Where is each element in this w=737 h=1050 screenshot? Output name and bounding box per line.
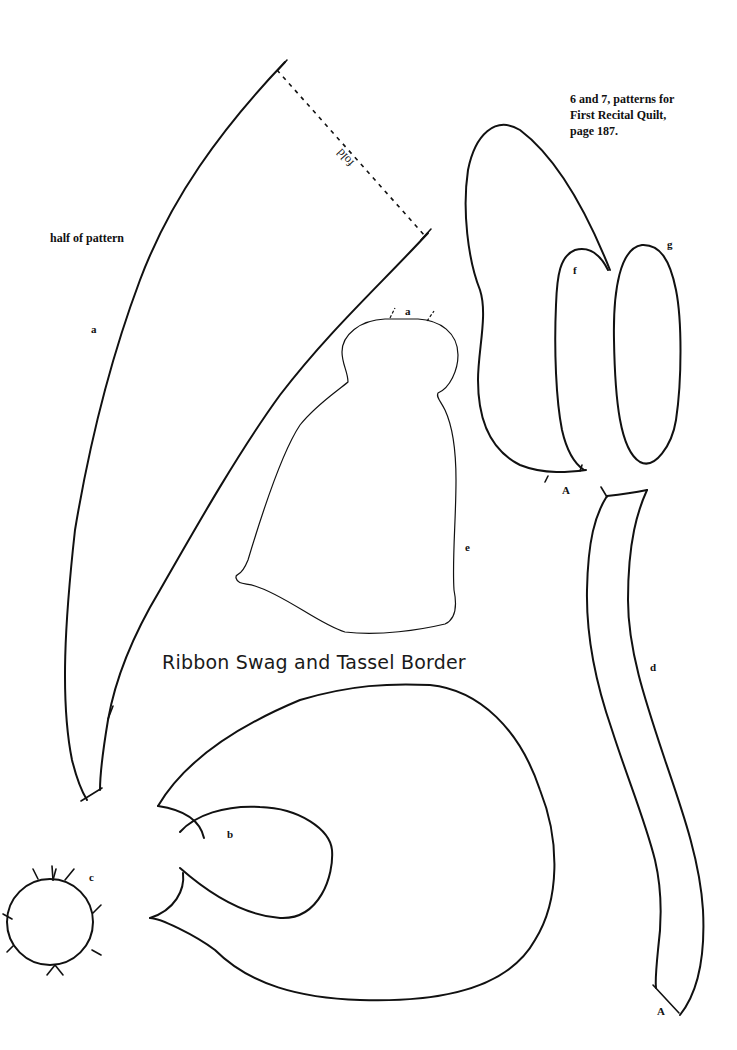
pattern-piece-g [614,245,681,464]
pattern-piece-a [65,60,431,801]
caption-line-2: First Recital Quilt, [570,107,674,123]
page-title: Ribbon Swag and Tassel Border [162,651,466,673]
piece-label-e: e [465,542,470,553]
pattern-page: 6 and 7, patterns for First Recital Quil… [0,0,737,1050]
caption-line-3: page 187. [570,123,674,139]
piece-label-c: c [89,872,94,883]
pattern-piece-f [545,249,608,482]
piece-label-A-bottom: A [657,1006,665,1017]
half-pattern-note: half of pattern [50,232,124,244]
piece-label-b: b [227,829,233,840]
pattern-caption: 6 and 7, patterns for First Recital Quil… [570,91,674,139]
piece-label-f: f [573,265,577,276]
pattern-piece-c [3,866,101,975]
piece-label-a: a [91,324,97,335]
pattern-piece-e [236,308,458,633]
pattern-drawing [0,0,737,1050]
pattern-piece-d [587,487,703,1015]
piece-label-A-top: A [562,485,570,496]
pattern-piece-petal [466,125,610,472]
piece-label-d: d [650,662,656,673]
piece-label-g: g [667,239,673,250]
caption-line-1: 6 and 7, patterns for [570,91,674,107]
pattern-piece-b [150,684,554,1000]
piece-label-a-notch: a [405,306,411,317]
